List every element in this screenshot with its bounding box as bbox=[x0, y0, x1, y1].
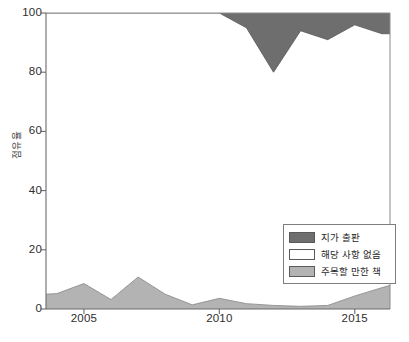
y-tick-label: 100 bbox=[8, 7, 42, 19]
legend-item[interactable]: 주목할 만한 책 bbox=[289, 263, 390, 280]
chart-plot-area bbox=[0, 0, 409, 342]
y-tick-label: 20 bbox=[8, 244, 42, 256]
x-tick-label: 2010 bbox=[193, 312, 245, 324]
y-axis-title: 점유율 bbox=[12, 115, 22, 175]
y-tick-label: 80 bbox=[8, 66, 42, 78]
y-axis-tick-marks bbox=[41, 13, 46, 309]
legend-item-label: 지가 출판 bbox=[321, 232, 360, 243]
figure-caption bbox=[6, 333, 306, 342]
legend-swatch-icon bbox=[289, 266, 315, 277]
x-tick-label: 2005 bbox=[58, 312, 110, 324]
legend-swatch-icon bbox=[289, 249, 315, 260]
y-tick-label: 0 bbox=[8, 303, 42, 315]
x-tick-label: 2015 bbox=[329, 312, 381, 324]
legend-item-label: 주목할 만한 책 bbox=[321, 266, 381, 277]
y-tick-label: 40 bbox=[8, 185, 42, 197]
chart-legend: 지가 출판해당 사항 없음주목할 만한 책 bbox=[283, 224, 396, 284]
legend-item-label: 해당 사항 없음 bbox=[321, 249, 381, 260]
legend-swatch-icon bbox=[289, 232, 315, 243]
legend-item[interactable]: 해당 사항 없음 bbox=[289, 246, 390, 263]
legend-item[interactable]: 지가 출판 bbox=[289, 229, 390, 246]
chart-figure: 100806040200 200520102015 점유율 지가 출판해당 사항… bbox=[0, 0, 409, 342]
